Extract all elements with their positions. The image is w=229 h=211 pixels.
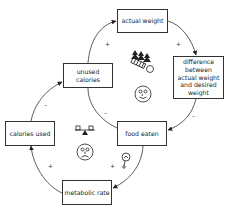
sign-actual-to-difference: + <box>176 40 181 47</box>
seesaw-balance-icon <box>75 126 95 135</box>
node-actual-weight: actual weight <box>117 9 168 33</box>
node-food-eaten: food eaten <box>117 121 167 146</box>
happy-face-icon <box>135 86 151 102</box>
node-calories-used: calories used <box>5 121 55 146</box>
sign-unused-to-actual: + <box>105 40 110 47</box>
sign-difference-to-food: – <box>192 112 195 119</box>
arrow-food-to-metabolic <box>113 146 143 188</box>
node-difference: difference between actual weight and des… <box>173 56 224 99</box>
sad-face-icon <box>77 144 93 160</box>
thermometer-gauge-icon <box>122 153 130 168</box>
sign-metabolic-to-calories-used: + <box>48 162 53 169</box>
arrow-food-to-unused <box>88 88 117 128</box>
sign-calories-used-to-unused: – <box>44 101 47 108</box>
trees-and-scale-icon <box>131 50 154 73</box>
node-metabolic-rate: metabolic rate <box>62 180 112 205</box>
sign-food-to-metabolic: + <box>110 162 115 169</box>
sign-food-to-unused: – <box>104 109 107 116</box>
causal-loop-diagram: + + – – – + + <box>0 0 229 211</box>
arrow-actual-to-difference <box>168 21 196 55</box>
arrow-unused-to-actual <box>88 21 116 63</box>
node-unused-calories: unused calories <box>63 63 113 88</box>
arrow-metabolic-to-calories-used <box>31 146 62 193</box>
